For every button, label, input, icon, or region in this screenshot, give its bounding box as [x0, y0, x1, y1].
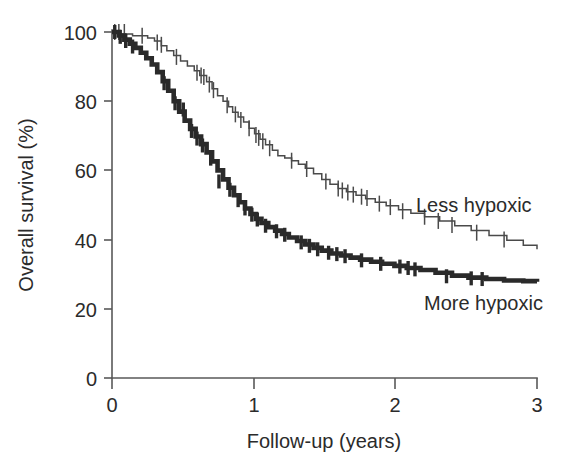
- x-tick-labels: 0 1 2 3: [106, 394, 542, 416]
- y-axis-title: Overall survival (%): [15, 118, 37, 291]
- y-tick-label-80: 80: [75, 91, 97, 113]
- km-step-line: [112, 32, 537, 282]
- y-tick-labels: 100 80 60 40 20 0: [64, 22, 97, 390]
- x-tick-label-2: 2: [389, 394, 400, 416]
- chart-canvas: 100 80 60 40 20 0 0 1 2 3 Follow-up (yea…: [0, 0, 581, 469]
- y-tick-label-40: 40: [75, 230, 97, 252]
- series-label-more-hypoxic: More hypoxic: [424, 292, 543, 314]
- y-tick-label-60: 60: [75, 160, 97, 182]
- km-curves-layer: [112, 24, 537, 286]
- series-label-less-hypoxic: Less hypoxic: [416, 194, 532, 216]
- y-tick-label-20: 20: [75, 299, 97, 321]
- y-tick-label-0: 0: [86, 368, 97, 390]
- x-tick-label-0: 0: [106, 394, 117, 416]
- survival-chart-figure: 100 80 60 40 20 0 0 1 2 3 Follow-up (yea…: [0, 0, 581, 469]
- x-tick-label-1: 1: [248, 394, 259, 416]
- x-tick-label-3: 3: [531, 394, 542, 416]
- x-axis-title: Follow-up (years): [247, 430, 401, 452]
- y-tick-label-100: 100: [64, 22, 97, 44]
